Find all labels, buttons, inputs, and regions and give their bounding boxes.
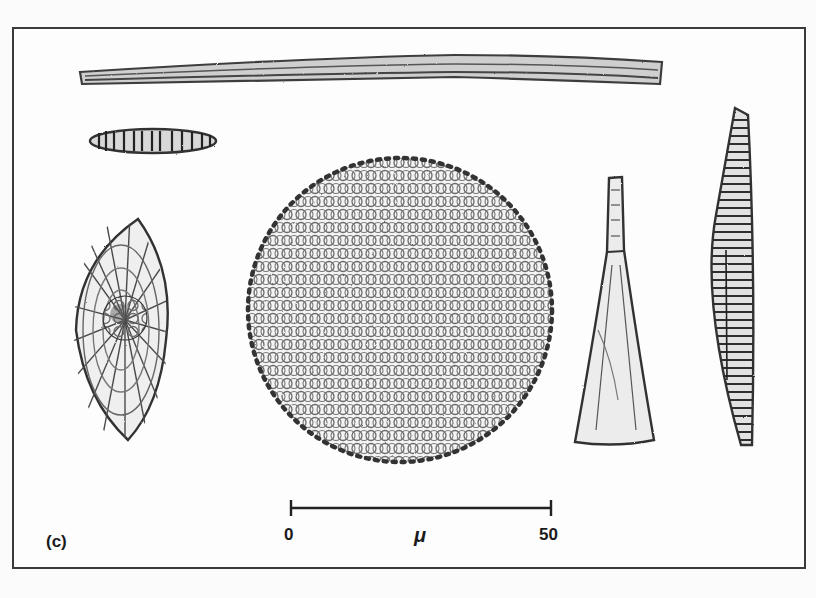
wedge-shaped-diatom [575,177,654,445]
centric-diatom [240,150,560,476]
scale-unit-label: μ [414,524,426,547]
figure-illustration [0,0,816,598]
scale-end-label: 50 [539,525,558,545]
spindle-diatom [700,108,760,445]
needle-diatom [80,55,662,84]
panel-label: (c) [46,532,67,552]
scale-start-label: 0 [284,525,293,545]
lens-shaped-diatom [50,215,195,455]
scale-bar [291,500,551,516]
small-elliptical-diatom [90,129,216,153]
